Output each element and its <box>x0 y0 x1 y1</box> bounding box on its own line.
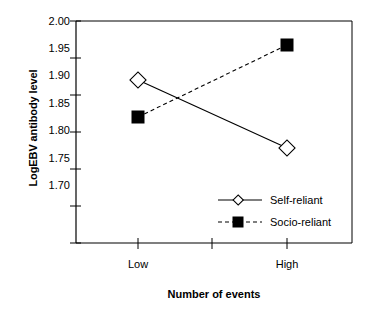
y-tick-label: 1.95 <box>32 43 70 54</box>
data-point-socio-reliant-high <box>281 39 293 51</box>
legend-marker-filled-square <box>233 217 243 227</box>
y-tick-label: 1.85 <box>32 98 70 109</box>
data-point-self-reliant-low <box>130 72 146 88</box>
y-tick-label: 2.00 <box>32 16 70 27</box>
legend <box>218 195 262 227</box>
y-tick-label: 1.80 <box>32 125 70 136</box>
series-line-socio-reliant <box>138 45 287 117</box>
series-line-self-reliant <box>138 80 287 148</box>
legend-label-self-reliant: Self-reliant <box>270 194 323 206</box>
data-point-self-reliant-high <box>279 140 295 156</box>
axis-frame <box>76 21 352 243</box>
legend-key-self-reliant <box>218 195 262 205</box>
series-socio-reliant <box>132 39 293 123</box>
legend-label-socio-reliant: Socio-reliant <box>270 216 331 228</box>
y-tick-label: 1.75 <box>32 153 70 164</box>
y-tick-label: 1.90 <box>32 70 70 81</box>
legend-marker-open-diamond <box>233 195 243 205</box>
x-axis-title: Number of events <box>76 288 352 300</box>
chart-figure: LogEBV antibody level 2.00 1.95 1.90 1.8… <box>0 0 371 314</box>
y-tick-label-group: 2.00 1.95 1.90 1.85 1.80 1.75 1.70 <box>26 0 70 314</box>
data-point-socio-reliant-low <box>132 111 144 123</box>
series-self-reliant <box>130 72 295 156</box>
y-tick-label: 1.70 <box>32 180 70 191</box>
x-tick-label-high: High <box>276 259 299 270</box>
x-tick-label-low: Low <box>128 259 148 270</box>
legend-key-socio-reliant <box>218 217 262 227</box>
